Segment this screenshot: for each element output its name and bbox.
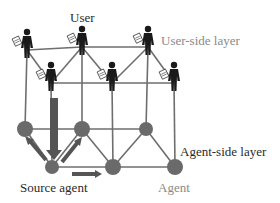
user-person-icon — [97, 62, 118, 91]
user-side-layer-label: User-side layer — [161, 34, 240, 48]
source-agent-label: Source agent — [20, 181, 88, 195]
agent-node — [167, 159, 183, 175]
agent-node — [105, 159, 121, 175]
edge — [174, 83, 175, 167]
edge — [27, 47, 82, 50]
agent-node — [45, 160, 59, 174]
user-nodes — [12, 26, 180, 91]
agent-label: Agent — [158, 181, 190, 195]
edge — [25, 50, 27, 129]
user-label: User — [70, 11, 95, 25]
edge — [146, 47, 148, 129]
agent-node — [74, 121, 90, 137]
network-diagram — [0, 0, 280, 203]
agent-side-layer-label: Agent-side layer — [180, 145, 266, 159]
propagation-arrows — [25, 98, 102, 178]
edges — [25, 47, 175, 167]
agent-node — [139, 122, 153, 136]
agent-node — [17, 121, 33, 137]
arrow-to-left-agent-icon — [25, 136, 46, 160]
arrow-to-right-agent-icon — [72, 170, 102, 178]
edge — [112, 83, 113, 167]
